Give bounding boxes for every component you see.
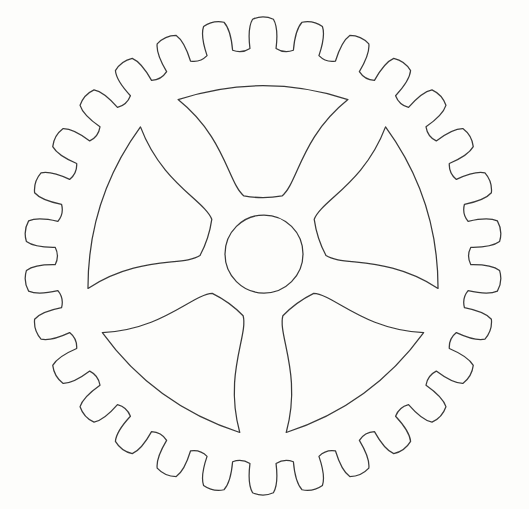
spoke-window-upper-left-icon [88, 127, 212, 289]
hub-circle-icon [225, 215, 303, 293]
outer-rim-teeth-icon [25, 17, 501, 495]
spoke-window-lower-left-icon [102, 293, 244, 432]
spoke-windows-group [88, 86, 438, 433]
gear-group [25, 17, 501, 495]
spoke-window-lower-right-icon [282, 293, 424, 432]
spoke-window-top-icon [178, 86, 348, 198]
drawing-canvas [0, 0, 529, 509]
spoke-window-upper-right-icon [314, 127, 438, 289]
gear-drawing [0, 0, 529, 509]
